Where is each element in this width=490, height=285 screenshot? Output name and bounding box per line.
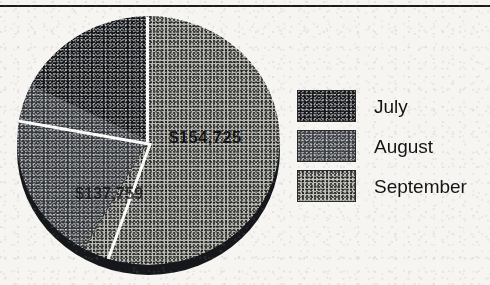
legend-swatch-august — [297, 130, 356, 162]
legend-swatch-texture-august — [298, 131, 355, 161]
legend-swatch-texture-july — [298, 91, 355, 121]
legend-label-july: July — [374, 97, 408, 116]
legend-item-july[interactable]: July — [297, 86, 467, 126]
legend-swatch-september — [297, 170, 356, 202]
legend-swatch-july — [297, 90, 356, 122]
pie-chart: $154,725 $137,759 — [17, 16, 280, 275]
legend-label-september: September — [374, 177, 467, 196]
legend-swatch-texture-september — [298, 171, 355, 201]
pie-label-august: $137,759 — [75, 185, 143, 203]
legend-item-august[interactable]: August — [297, 126, 467, 166]
legend-item-september[interactable]: September — [297, 166, 467, 206]
pie-label-september: $154,725 — [169, 128, 242, 148]
slice-separator-july-september — [146, 16, 149, 142]
chart-legend: July August September — [297, 86, 467, 206]
legend-label-august: August — [374, 137, 433, 156]
top-divider-rule — [0, 5, 490, 7]
chart-page: $154,725 $137,759 July August September — [0, 0, 490, 285]
